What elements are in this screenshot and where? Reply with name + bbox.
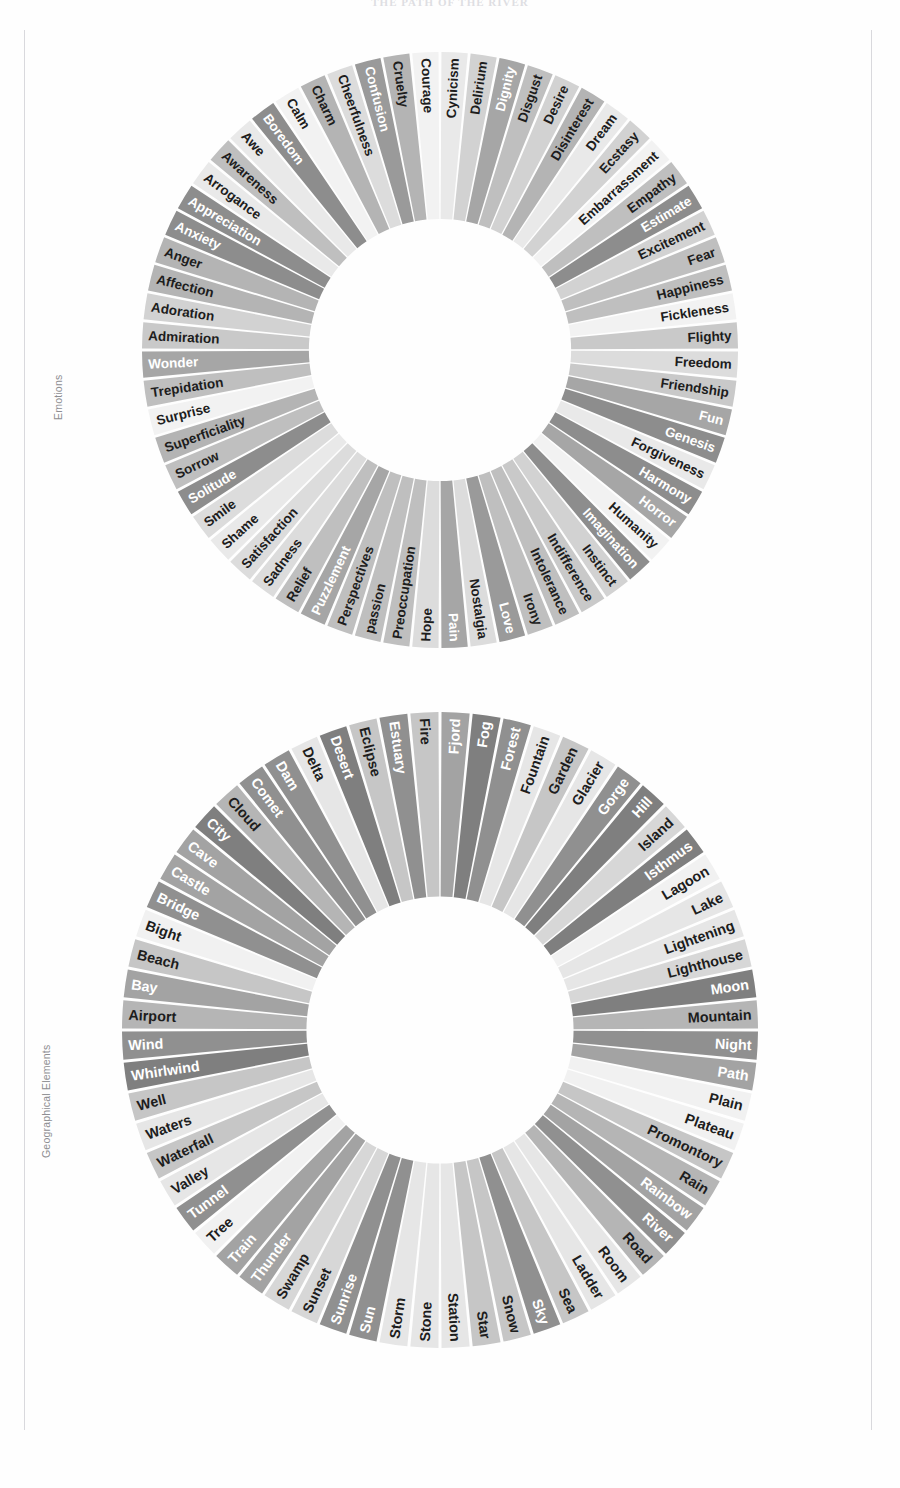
wheel-segment-label: Station <box>445 1293 463 1342</box>
page-rule-right <box>871 30 872 1430</box>
wheel-segment-label: Pain <box>445 613 461 642</box>
wheel-segment-label: Courage <box>418 58 436 114</box>
page-rule-left <box>24 30 25 1430</box>
wheel-segment-label: Airport <box>128 1007 177 1025</box>
emotions-donut-chart: AdmirationAdorationAffectionAngerAnxiety… <box>140 50 740 650</box>
document-title: THE PATH OF THE RIVER <box>0 0 900 10</box>
figure-label-geographical: Geographical Elements <box>40 1045 52 1158</box>
wheel-segment-label: Mountain <box>687 1007 752 1026</box>
wheel-segment-label: Cynicism <box>444 58 462 119</box>
wheel-segment-label: Wonder <box>148 354 199 371</box>
wheel-segment-label: Fire <box>417 718 434 745</box>
wheel-segment-label: Fjord <box>446 718 464 755</box>
wheel-segment-label: Hope <box>418 607 435 642</box>
figure-geographical-wheel: AirportBayBeachBightBridgeCastleCaveCity… <box>100 690 780 1370</box>
geographical-donut-chart: AirportBayBeachBightBridgeCastleCaveCity… <box>120 710 760 1350</box>
wheel-segment-label: Flighty <box>687 328 732 345</box>
figure-emotions-wheel: AdmirationAdorationAffectionAngerAnxiety… <box>120 30 760 670</box>
figure-label-emotions: Emotions <box>52 375 64 420</box>
wheel-segment-label: Stone <box>417 1301 435 1342</box>
emotions-svg: AdmirationAdorationAffectionAngerAnxiety… <box>140 50 740 650</box>
wheel-segment-label: Night <box>715 1036 753 1054</box>
page-canvas: THE PATH OF THE RIVER AdmirationAdoratio… <box>0 0 900 1488</box>
geographical-svg: AirportBayBeachBightBridgeCastleCaveCity… <box>120 710 760 1350</box>
wheel-segment-label: Wind <box>128 1036 164 1054</box>
wheel-segment-label: Freedom <box>674 354 732 372</box>
